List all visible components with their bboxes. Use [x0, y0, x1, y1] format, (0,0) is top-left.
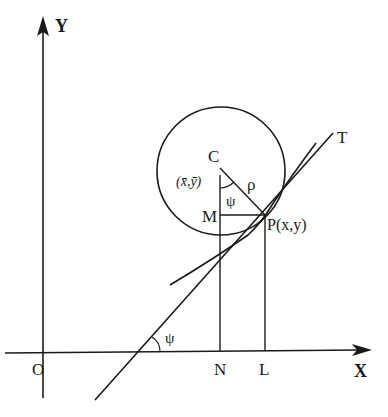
angle-arc-axis [152, 337, 160, 352]
label-m: M [202, 207, 217, 226]
label-psi-c: ψ [226, 193, 236, 209]
label-n: N [214, 360, 226, 379]
curve [170, 143, 316, 285]
label-center-coords: (x̄,ȳ) [176, 174, 202, 190]
x-axis [5, 350, 362, 353]
label-c: C [208, 147, 219, 166]
label-l: L [259, 360, 269, 379]
label-rho: ρ [247, 175, 255, 194]
origin-label: O [32, 360, 44, 379]
label-psi-axis: ψ [165, 330, 175, 346]
angle-arc-c [220, 182, 234, 188]
curvature-diagram: Y X O N L T C (x̄,ȳ) ρ ψ M P(x,y) ψ [0, 0, 388, 417]
x-axis-label: X [354, 361, 367, 381]
label-p: P(x,y) [267, 216, 307, 234]
label-t: T [337, 128, 348, 147]
y-axis-label: Y [55, 16, 68, 36]
